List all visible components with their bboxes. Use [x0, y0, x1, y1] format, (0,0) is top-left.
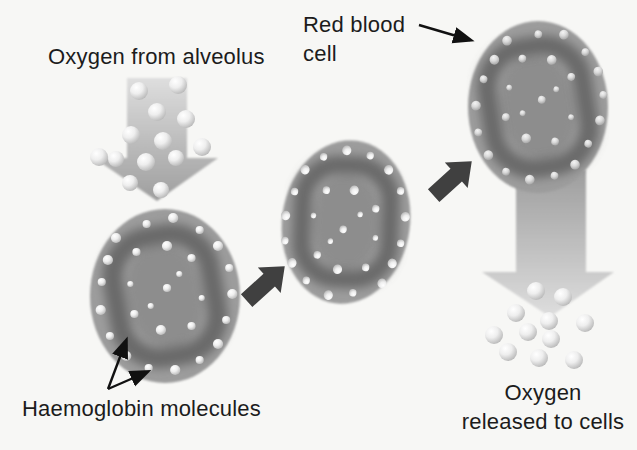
step-arrow-1 — [235, 253, 296, 313]
molecule-sphere — [485, 326, 503, 344]
molecule-sphere — [576, 314, 594, 332]
molecule-sphere — [196, 356, 204, 364]
oxygen-transport-diagram: Oxygen from alveolus Red blood cell Haem… — [0, 0, 637, 450]
molecule-sphere — [137, 153, 155, 171]
molecule-sphere — [98, 278, 106, 286]
molecule-sphere — [132, 248, 140, 256]
molecule-sphere — [199, 295, 205, 301]
molecule-sphere — [122, 175, 138, 191]
molecule-sphere — [222, 316, 230, 324]
molecule-sphere — [103, 255, 113, 265]
molecule-sphere — [527, 282, 545, 300]
molecule-sphere — [225, 264, 233, 272]
label-oxygen-from-alveolus: Oxygen from alveolus — [48, 42, 265, 71]
molecule-sphere — [196, 226, 204, 234]
molecule-sphere — [565, 351, 583, 369]
molecule-sphere — [148, 103, 166, 121]
molecule-sphere — [213, 339, 223, 349]
molecule-sphere — [130, 310, 138, 318]
molecule-sphere — [540, 312, 558, 330]
molecule-sphere — [154, 132, 172, 150]
molecule-sphere — [213, 241, 223, 251]
molecule-sphere — [108, 151, 124, 167]
molecule-sphere — [162, 241, 172, 251]
molecule-sphere — [499, 343, 517, 361]
molecule-sphere — [163, 284, 171, 292]
molecule-sphere — [193, 138, 211, 156]
molecule-sphere — [145, 364, 153, 372]
molecule-sphere — [169, 76, 187, 94]
molecule-sphere — [530, 349, 548, 367]
molecule-sphere — [130, 82, 148, 100]
oxygen-inflow-arrow — [90, 76, 218, 201]
molecule-sphere — [542, 330, 560, 348]
molecule-sphere — [143, 220, 151, 228]
molecule-sphere — [554, 288, 572, 306]
molecule-sphere — [127, 281, 133, 287]
molecule-sphere — [122, 126, 140, 144]
molecule-sphere — [153, 182, 169, 198]
molecule-sphere — [168, 150, 184, 166]
molecule-sphere — [176, 271, 182, 277]
red-blood-cell-3 — [456, 12, 624, 198]
molecule-sphere — [168, 213, 178, 223]
label-red-blood-cell: Red blood cell — [303, 10, 453, 68]
molecule-sphere — [148, 303, 154, 309]
molecule-sphere — [187, 322, 195, 330]
molecule-sphere — [519, 323, 537, 341]
red-blood-cell-1 — [90, 209, 240, 383]
red-blood-cell-2 — [270, 132, 421, 312]
molecule-sphere — [177, 110, 195, 128]
molecule-sphere — [96, 305, 106, 315]
molecule-sphere — [507, 304, 525, 322]
molecule-sphere — [170, 365, 180, 375]
step-arrow-2 — [422, 148, 483, 208]
molecule-sphere — [106, 332, 114, 340]
label-haemoglobin-molecules: Haemoglobin molecules — [22, 394, 261, 423]
label-oxygen-released-to-cells: Oxygen released to cells — [440, 378, 637, 436]
molecule-sphere — [156, 325, 166, 335]
molecule-sphere — [90, 148, 108, 166]
molecule-sphere — [227, 289, 237, 299]
molecule-sphere — [187, 254, 195, 262]
molecule-sphere — [111, 233, 121, 243]
